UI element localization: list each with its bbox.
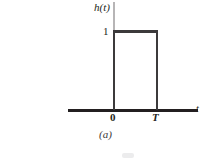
figure-rectangular-pulse: h(t) 1 0 T t (a): [0, 0, 211, 162]
x-axis-label: t: [196, 104, 199, 114]
origin-tick-label: 0: [110, 112, 116, 123]
pulse-waveform: [114, 32, 157, 111]
figure-caption: (a): [0, 129, 211, 140]
amplitude-tick-label: 1: [103, 26, 109, 37]
page-artifact: [122, 153, 134, 158]
duration-tick-label: T: [152, 112, 159, 123]
y-axis-label: h(t): [94, 2, 110, 13]
